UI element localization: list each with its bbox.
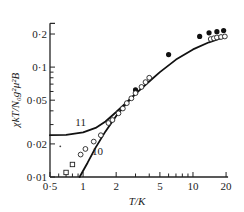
open-circle-point [147,75,152,80]
open-circle-point [98,133,103,138]
filled-circle-point [221,28,226,33]
x-tick-label: 2 [113,180,119,192]
open-circle-point [222,34,227,39]
small-dot-point [59,145,61,147]
x-tick-label: 1 [80,180,86,192]
open-circle-point [124,101,129,106]
open-circle-point [83,147,88,152]
open-circle-point [78,152,83,157]
chart: 0·010·020·050·10·20·51251020T/KχkT/N₀g²μ… [0,0,244,212]
y-axis-title: χkT/N₀g²μ²B [9,73,21,129]
open-square-point [64,170,68,174]
open-circle-point [116,111,121,116]
y-tick-label: 0·05 [27,94,48,106]
open-circle-point [110,118,115,123]
open-circle-point [120,106,125,111]
filled-circle-point [206,30,211,35]
filled-circle-point [166,52,171,57]
y-tick-label: 0·2 [32,28,47,40]
open-circle-point [129,96,134,101]
filled-circle-point [197,34,202,39]
fitted-curves [50,37,226,178]
x-tick-label: 20 [221,180,233,192]
y-tick-label: 0·1 [32,61,47,73]
open-square-point [70,162,74,166]
curve-10 [80,94,136,177]
x-tick-label: 0·5 [43,180,58,192]
x-tick-label: 10 [187,180,199,192]
y-tick-label: 0·02 [27,138,47,150]
open-circle-point [139,85,144,90]
filled-circle-point [214,29,219,34]
curve-label-10: 10 [92,145,104,157]
open-circle-point [143,80,148,85]
x-tick-label: 5 [157,180,163,192]
curve-label-11: 11 [75,116,86,128]
data-points [59,28,227,175]
open-circle-point [133,91,138,96]
open-circle-point [91,139,96,144]
x-axis-title: T/K [129,195,146,207]
